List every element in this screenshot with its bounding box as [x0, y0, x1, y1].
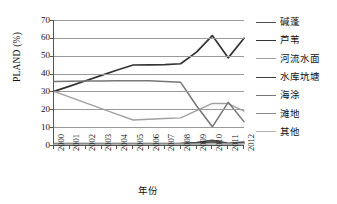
plot-area [53, 20, 244, 146]
x-tick-label: 2001 [72, 134, 81, 151]
x-tick-label: 2009 [199, 134, 208, 151]
x-tick-mark [53, 145, 54, 149]
y-axis-title: PLAND (%) [12, 12, 22, 102]
gridline [54, 38, 244, 39]
legend-item[interactable]: 海涂 [256, 86, 336, 104]
gridline [54, 109, 244, 110]
legend-item[interactable]: 芦苇 [256, 31, 336, 49]
y-tick-label: 20 [30, 105, 50, 114]
x-tick-label: 2011 [231, 134, 240, 151]
legend-swatch-icon [256, 58, 276, 59]
y-tick-mark [50, 56, 54, 57]
y-tick-label: 10 [30, 123, 50, 132]
x-tick-label: 2012 [247, 134, 256, 151]
x-tick-label: 2000 [57, 134, 66, 151]
x-tick-mark [132, 145, 133, 149]
legend-item[interactable]: 水库坑塘 [256, 68, 336, 86]
gridline [54, 74, 244, 75]
series-line [54, 91, 244, 120]
y-tick-mark [50, 109, 54, 110]
legend-label: 碱蓬 [280, 17, 300, 27]
legend-swatch-icon [256, 95, 276, 96]
pland-line-chart: PLAND (%) 010203040506070 年份 碱蓬芦苇河流水面水库坑… [0, 0, 337, 204]
x-tick-label: 2002 [88, 134, 97, 151]
legend-item[interactable]: 滩地 [256, 104, 336, 122]
x-tick-mark [227, 145, 228, 149]
gridline [54, 56, 244, 57]
legend-item[interactable]: 其他 [256, 123, 336, 141]
y-tick-mark [50, 91, 54, 92]
x-tick-mark [196, 145, 197, 149]
x-tick-label: 2008 [183, 134, 192, 151]
x-tick-mark [243, 145, 244, 149]
x-tick-mark [180, 145, 181, 149]
legend-swatch-icon [256, 40, 276, 41]
legend-label: 芦苇 [280, 35, 300, 45]
y-tick-mark [50, 127, 54, 128]
x-tick-mark [211, 145, 212, 149]
x-tick-mark [116, 145, 117, 149]
y-tick-label: 0 [30, 141, 50, 150]
legend-label: 水库坑塘 [280, 72, 320, 82]
legend: 碱蓬芦苇河流水面水库坑塘海涂滩地其他 [256, 13, 336, 141]
y-tick-mark [50, 38, 54, 39]
legend-label: 海涂 [280, 90, 300, 100]
y-tick-label: 50 [30, 51, 50, 60]
legend-label: 滩地 [280, 109, 300, 119]
legend-label: 河流水面 [280, 54, 320, 64]
legend-swatch-icon [256, 131, 276, 132]
gridline [54, 127, 244, 128]
y-tick-label: 40 [30, 69, 50, 78]
gridline [54, 91, 244, 92]
x-tick-label: 2003 [104, 134, 113, 151]
legend-swatch-icon [256, 22, 276, 23]
legend-swatch-icon [256, 77, 276, 78]
x-tick-label: 2007 [167, 134, 176, 151]
x-tick-mark [85, 145, 86, 149]
y-tick-labels: 010203040506070 [28, 20, 50, 145]
y-tick-label: 60 [30, 33, 50, 42]
x-tick-label: 2006 [152, 134, 161, 151]
y-tick-label: 30 [30, 87, 50, 96]
x-tick-mark [69, 145, 70, 149]
legend-swatch-icon [256, 113, 276, 114]
series-line [54, 36, 244, 92]
legend-item[interactable]: 碱蓬 [256, 13, 336, 31]
y-tick-mark [50, 74, 54, 75]
gridline [54, 20, 244, 21]
y-tick-label: 70 [30, 16, 50, 25]
x-tick-label: 2010 [215, 134, 224, 151]
legend-item[interactable]: 河流水面 [256, 50, 336, 68]
x-tick-label: 2005 [136, 134, 145, 151]
x-axis-title: 年份 [53, 183, 243, 197]
x-tick-mark [148, 145, 149, 149]
x-tick-label: 2004 [120, 134, 129, 151]
y-tick-mark [50, 20, 54, 21]
x-tick-mark [101, 145, 102, 149]
x-tick-mark [164, 145, 165, 149]
legend-label: 其他 [280, 127, 300, 137]
